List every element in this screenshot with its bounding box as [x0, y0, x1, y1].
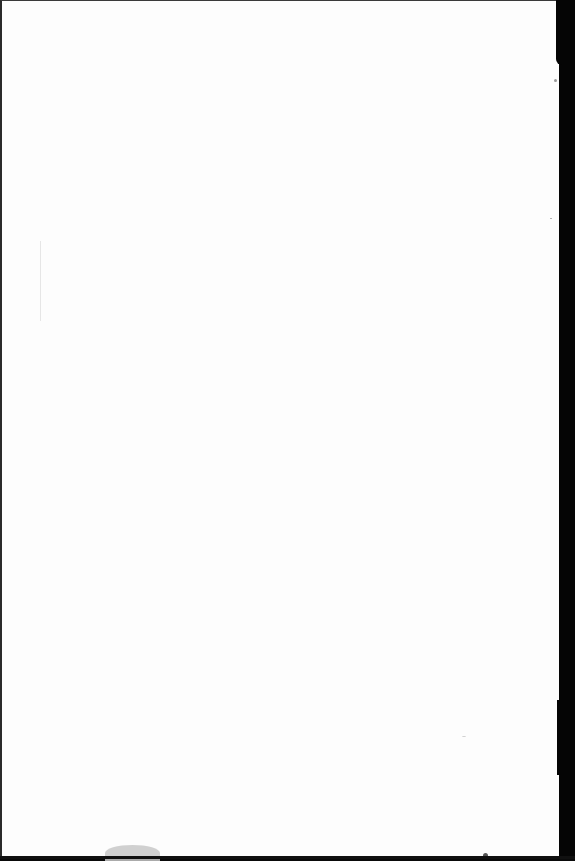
scan-edge-shadow-bottom	[557, 700, 563, 775]
scanned-page	[0, 0, 562, 856]
scan-edge-shadow-top	[556, 0, 562, 65]
faint-margin-mark	[40, 241, 41, 321]
dust-speck	[550, 218, 552, 219]
dust-speck	[462, 736, 466, 737]
bleed-through-text	[42, 26, 132, 86]
scan-bottom-border	[0, 856, 575, 859]
dust-speck	[554, 79, 557, 82]
